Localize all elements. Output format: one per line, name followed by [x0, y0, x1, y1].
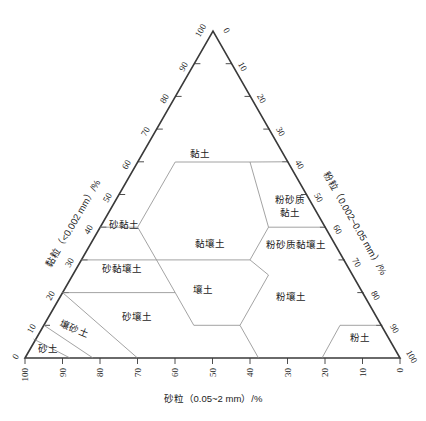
region-label-sandy-clay: 砂黏土 [109, 219, 139, 230]
region-label-silty-clay-line2: 黏土 [280, 207, 300, 218]
clay-axis-ticks [44, 64, 201, 326]
clay-tick-10: 10 [25, 322, 38, 335]
clay-tick-90: 90 [177, 60, 190, 73]
region-label-silt-loam: 粉壤土 [276, 291, 306, 302]
sand-tick-50: 50 [208, 368, 218, 378]
silt-tick-50: 50 [312, 191, 325, 204]
region-label-clay: 黏土 [190, 148, 210, 159]
clay-tick-20: 20 [44, 289, 57, 302]
region-label-clay-loam: 黏壤土 [195, 238, 225, 249]
sand-tick-10: 10 [358, 368, 368, 378]
clay-tick-70: 70 [139, 125, 152, 138]
sand-axis-ticks [25, 358, 400, 364]
clay-tick-80: 80 [158, 92, 171, 105]
clay-tick-60: 60 [120, 158, 133, 171]
region-label-sand: 砂土 [38, 343, 58, 354]
sand-axis-tick-labels: 100 90 80 70 60 50 40 30 20 10 0 [20, 368, 405, 382]
region-label-silty-clay-loam: 粉砂质黏壤土 [266, 239, 326, 250]
sand-tick-60: 60 [170, 368, 180, 378]
silt-tick-80: 80 [369, 289, 382, 302]
sand-tick-20: 20 [320, 368, 330, 378]
sand-tick-100: 100 [20, 368, 30, 382]
silt-axis-tick-labels: 0 10 20 30 40 50 60 70 80 90 100 [221, 26, 419, 365]
region-label-silt: 粉土 [350, 332, 370, 343]
sand-tick-80: 80 [95, 368, 105, 378]
clay-tick-100: 100 [193, 22, 209, 39]
clay-tick-30: 30 [63, 256, 76, 269]
region-label-loamy-sand: 壤砂土 [58, 318, 90, 339]
sand-tick-30: 30 [283, 368, 293, 378]
sand-tick-40: 40 [245, 368, 255, 378]
silt-tick-40: 40 [293, 158, 306, 171]
region-label-loam: 壤土 [193, 284, 213, 295]
clay-tick-40: 40 [82, 223, 95, 236]
silt-tick-0: 0 [221, 26, 232, 35]
clay-axis-title: 黏粒（<0.002 mm）/% [43, 177, 102, 269]
sand-tick-70: 70 [133, 368, 143, 378]
silt-tick-100: 100 [404, 348, 420, 365]
silt-tick-30: 30 [274, 125, 287, 138]
region-labels: 黏土 粉砂质 黏土 砂黏土 黏壤土 粉砂质黏壤土 砂黏壤土 壤土 粉壤土 砂壤土… [38, 148, 370, 354]
region-label-sandy-clay-loam: 砂黏壤土 [102, 263, 142, 274]
soil-texture-triangle-figure: 100 90 80 70 60 50 40 30 20 10 0 0 [0, 0, 426, 421]
clay-tick-50: 50 [101, 191, 114, 204]
clay-tick-0: 0 [10, 352, 21, 361]
ternary-diagram: 100 90 80 70 60 50 40 30 20 10 0 0 [0, 0, 426, 421]
silt-tick-20: 20 [255, 92, 268, 105]
region-label-sandy-loam: 砂壤土 [122, 311, 152, 322]
sand-axis-title: 砂粒（0.05~2 mm）/% [164, 393, 263, 404]
silt-tick-60: 60 [331, 223, 344, 236]
silt-tick-70: 70 [350, 256, 363, 269]
sand-tick-0: 0 [395, 368, 405, 373]
clay-axis-tick-labels: 0 10 20 30 40 50 60 70 80 90 100 [10, 22, 208, 361]
silt-tick-10: 10 [236, 60, 249, 73]
region-label-silty-clay-line1: 粉砂质 [275, 194, 305, 205]
silt-tick-90: 90 [388, 322, 401, 335]
sand-tick-90: 90 [58, 368, 68, 378]
